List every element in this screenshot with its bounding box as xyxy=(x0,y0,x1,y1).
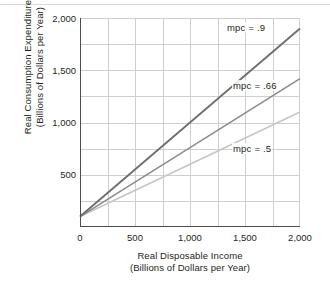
y-tick-label-500: 500 xyxy=(30,170,76,180)
x-tick-label-2000: 2,000 xyxy=(277,233,323,243)
series-line-mpc-5 xyxy=(80,112,300,217)
series-line-mpc-9 xyxy=(80,28,300,216)
x-tick-label-0: 0 xyxy=(57,233,103,243)
x-tick-label-1500: 1,500 xyxy=(222,233,268,243)
annotation-mpc-066: mpc = .66 xyxy=(232,80,278,91)
x-tick-label-500: 500 xyxy=(112,233,158,243)
annotation-mpc-05: mpc = .5 xyxy=(232,143,272,154)
x-axis-title-line2: (Billions of Dollars per Year) xyxy=(80,262,300,274)
annotation-mpc-09: mpc = .9 xyxy=(226,22,266,33)
x-axis-title: Real Disposable Income (Billions of Doll… xyxy=(80,250,300,275)
x-axis-line xyxy=(80,226,300,227)
x-tick-label-1000: 1,000 xyxy=(167,233,213,243)
plot-area: mpc = .9 mpc = .66 mpc = .5 xyxy=(80,18,300,227)
consumption-function-chart: Real Consumption Expenditure (Billions o… xyxy=(0,0,330,292)
series-lines xyxy=(80,18,300,227)
y-tick-label-1000: 1,000 xyxy=(30,118,76,128)
x-axis-title-line1: Real Disposable Income xyxy=(80,250,300,262)
y-axis-title: Real Consumption Expenditure (Billions o… xyxy=(19,0,49,167)
y-tick-label-2000: 2,000 xyxy=(30,14,76,24)
y-axis-line xyxy=(80,18,81,227)
y-tick-label-1500: 1,500 xyxy=(30,66,76,76)
